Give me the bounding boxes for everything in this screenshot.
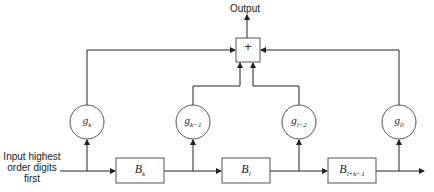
delay-base: B [241, 162, 248, 176]
delay-label-bl: Bl [222, 162, 270, 178]
delay-sub: k [142, 170, 145, 178]
input-label: Input highest order digits first [3, 151, 61, 184]
input-label-line3: first [3, 173, 61, 184]
multiplier-label-gk: gk [70, 114, 104, 129]
multiplier-label-gl-2: gl−2 [282, 114, 316, 129]
multiplier-sub: 0 [400, 121, 404, 129]
multiplier-sub: k−1 [190, 121, 201, 129]
input-label-line2: order digits [3, 162, 61, 173]
output-label: Output [230, 3, 260, 14]
multiplier-sub: l−2 [297, 121, 307, 129]
delay-label-blk1: Bl+k−1 [328, 162, 376, 178]
multiplier-label-g0: g0 [382, 114, 416, 129]
delay-sub: l+k−1 [347, 170, 365, 178]
delay-label-bk: Bk [116, 162, 164, 178]
delay-sub: l [249, 170, 251, 178]
input-label-line1: Input highest [3, 151, 61, 162]
multiplier-label-gk-1: gk−1 [176, 114, 210, 129]
delay-base: B [339, 162, 346, 176]
delay-base: B [135, 162, 142, 176]
adder-symbol: + [236, 40, 260, 54]
multiplier-sub: k [88, 121, 91, 129]
